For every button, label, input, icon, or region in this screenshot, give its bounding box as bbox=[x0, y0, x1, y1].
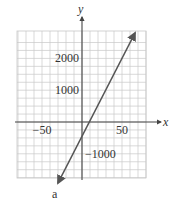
tick-labels: xy−505020001000−1000a bbox=[33, 2, 169, 201]
footer-mark: a bbox=[52, 187, 58, 201]
y-tick-label: 2000 bbox=[55, 51, 79, 65]
x-tick-label: 50 bbox=[116, 123, 128, 137]
y-tick-label: −1000 bbox=[85, 147, 116, 161]
x-tick-label: −50 bbox=[33, 123, 52, 137]
x-axis-label: x bbox=[162, 115, 169, 129]
chart: xy−505020001000−1000a bbox=[0, 0, 176, 201]
y-tick-label: 1000 bbox=[55, 83, 79, 97]
y-axis-label: y bbox=[77, 2, 84, 16]
